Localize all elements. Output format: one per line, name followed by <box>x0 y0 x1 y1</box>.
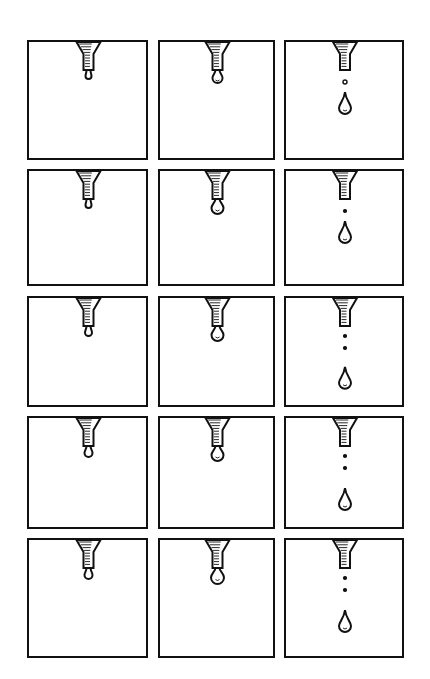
water-drop-icon <box>212 326 224 341</box>
faucet-drip-illustration <box>160 540 273 656</box>
water-drop-icon <box>212 199 224 214</box>
faucet-icon <box>206 42 230 70</box>
faucet-drip-illustration <box>286 42 402 158</box>
faucet-drip-illustration <box>29 298 146 405</box>
faucet-drip-illustration <box>286 171 402 284</box>
faucet-icon <box>206 540 230 568</box>
water-droplet-icon <box>344 577 347 580</box>
faucet-icon <box>333 540 357 568</box>
water-droplet-icon <box>344 589 347 592</box>
faucet-drip-illustration <box>160 42 273 158</box>
faucet-drip-illustration <box>29 418 146 527</box>
faucet-icon <box>206 418 230 446</box>
water-drop-icon <box>85 568 93 579</box>
faucet-drip-illustration <box>286 418 402 527</box>
water-droplet-icon <box>344 210 347 213</box>
faucet-icon <box>206 171 230 199</box>
comic-panel <box>27 296 148 407</box>
faucet-drip-illustration <box>29 171 146 284</box>
comic-panel <box>158 296 275 407</box>
faucet-drip-illustration <box>286 298 402 405</box>
faucet-icon <box>77 298 101 326</box>
faucet-icon <box>333 171 357 199</box>
faucet-icon <box>206 298 230 326</box>
water-drop-icon <box>86 199 92 208</box>
faucet-icon <box>77 171 101 199</box>
faucet-drip-illustration <box>160 171 273 284</box>
comic-panel <box>158 40 275 160</box>
comic-panel <box>27 538 148 658</box>
comic-panel <box>27 40 148 160</box>
faucet-drip-illustration <box>160 298 273 405</box>
comic-panel <box>158 169 275 286</box>
water-droplet-icon <box>344 347 347 350</box>
comic-panel <box>158 538 275 658</box>
comic-panel <box>158 416 275 529</box>
comic-panel <box>284 538 404 658</box>
water-drop-icon <box>85 446 93 457</box>
faucet-drip-illustration <box>29 42 146 158</box>
water-drop-icon <box>212 446 224 461</box>
water-droplet-icon <box>344 467 347 470</box>
water-drop-icon <box>86 70 92 79</box>
water-drop-icon <box>211 568 224 584</box>
comic-panel <box>284 169 404 286</box>
faucet-drip-illustration <box>29 540 146 656</box>
faucet-icon <box>77 42 101 70</box>
faucet-icon <box>77 540 101 568</box>
water-droplet-icon <box>344 455 347 458</box>
water-droplet-icon <box>343 80 347 84</box>
faucet-icon <box>333 298 357 326</box>
water-droplet-icon <box>344 335 347 338</box>
faucet-icon <box>333 42 357 70</box>
faucet-icon <box>77 418 101 446</box>
water-drop-icon <box>85 326 92 336</box>
comic-panel <box>27 416 148 529</box>
faucet-drip-illustration <box>160 418 273 527</box>
faucet-drip-illustration <box>286 540 402 656</box>
comic-panel <box>284 296 404 407</box>
faucet-icon <box>333 418 357 446</box>
comic-panel <box>27 169 148 286</box>
comic-panel <box>284 40 404 160</box>
comic-panel <box>284 416 404 529</box>
